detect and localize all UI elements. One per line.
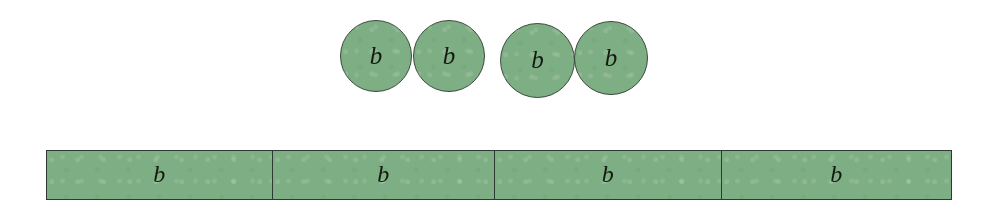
bar-segment-4: b: [721, 151, 951, 199]
bar-part-label: b: [153, 162, 165, 186]
bar-model: b b b b: [46, 150, 952, 200]
bar-segment-2: b: [272, 151, 495, 199]
circle-part-label: b: [605, 45, 618, 70]
bar-part-label: b: [377, 162, 389, 186]
bar-segment-3: b: [494, 151, 721, 199]
circle-part-label: b: [370, 43, 383, 68]
fraction-circle-2: b: [413, 20, 485, 92]
fraction-diagram-canvas: b b b b b b b b: [0, 0, 988, 220]
fraction-circle-4: b: [574, 21, 648, 95]
bar-part-label: b: [830, 162, 842, 186]
circle-model-row: b b b b: [0, 0, 988, 110]
circle-part-label: b: [531, 47, 544, 72]
bar-part-label: b: [602, 162, 614, 186]
fraction-circle-3: b: [500, 23, 575, 98]
circle-part-label: b: [443, 43, 456, 68]
bar-segment-1: b: [47, 151, 272, 199]
fraction-circle-1: b: [340, 20, 412, 92]
